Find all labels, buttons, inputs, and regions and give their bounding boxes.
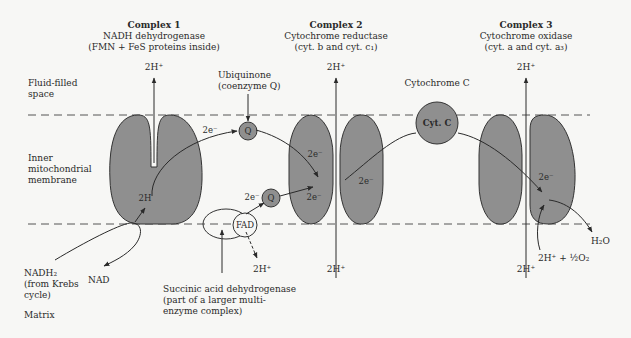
- electron-label-2: 2e⁻: [308, 149, 323, 160]
- complex-2-proton-out: 2H⁺: [327, 62, 345, 73]
- complex-1-title: Complex 1: [128, 20, 181, 31]
- succinic-label-line1: Succinic acid dehydrogenase: [163, 284, 296, 295]
- electron-label-5: 2e⁻: [359, 176, 374, 187]
- complex-3-detail: (cyt. a and cyt. a₃): [485, 42, 568, 53]
- nadh-label-line3: cycle): [24, 290, 51, 301]
- complex-3-title: Complex 3: [500, 20, 553, 31]
- complex-1-proton-out: 2H⁺: [145, 62, 163, 73]
- nadh-label-line2: (from Krebs: [24, 279, 79, 290]
- fluid-space-label-line1: Fluid-filled: [28, 78, 77, 89]
- complex-1-shape: [110, 115, 202, 224]
- complex-3-name: Cytochrome oxidase: [480, 31, 573, 42]
- matrix-label: Matrix: [24, 310, 54, 321]
- complex-2-right-lobe: [340, 115, 383, 224]
- electron-label-4: 2e⁻: [307, 192, 322, 203]
- complex-2-proton-in: 2H⁺: [327, 264, 345, 275]
- complex-3-right-lobe: [530, 115, 575, 224]
- membrane-label-line2: mitochondrial: [28, 164, 92, 175]
- complex-3-proton-in: 2H⁺: [517, 264, 535, 275]
- electron-label-1: 2e⁻: [203, 125, 218, 136]
- water-label: H₂O: [591, 236, 610, 247]
- oxygen-label: 2H⁺ + ½O₂: [538, 253, 589, 264]
- complex-2-left-lobe: [289, 115, 333, 224]
- succinic-label-line3: enzyme complex): [163, 306, 242, 317]
- fad-label: FAD: [236, 220, 254, 231]
- complex-1-name: NADH dehydrogenase: [103, 31, 205, 42]
- nadh-label-line1: NADH₂: [24, 268, 57, 279]
- q-lower-label: Q: [268, 193, 275, 204]
- ubiquinone-label-line1: Ubiquinone: [218, 70, 271, 81]
- complex-2-name: Cytochrome reductase: [284, 31, 387, 42]
- cytochrome-c-label: Cytochrome C: [404, 78, 469, 89]
- fluid-space-label-line2: space: [28, 89, 54, 100]
- electron-transport-chain-diagram: Complex 1 NADH dehydrogenase (FMN + FeS …: [0, 0, 631, 338]
- cytochrome-c-inner-label: Cyt. C: [423, 118, 451, 129]
- electron-label-6: 2e⁻: [539, 172, 554, 183]
- electron-label-3: 2e⁻: [245, 192, 260, 203]
- membrane-label-line1: Inner: [28, 153, 53, 164]
- succinic-label-line2: (part of a larger multi-: [163, 295, 266, 306]
- complex-2-detail: (cyt. b and cyt. c₁): [294, 42, 377, 53]
- membrane-label-line3: membrane: [28, 175, 77, 186]
- complex-3-proton-out: 2H⁺: [517, 62, 535, 73]
- q-top-label: Q: [245, 126, 252, 137]
- complex-1-detail: (FMN + FeS proteins inside): [88, 42, 220, 53]
- nad-label: NAD: [88, 275, 110, 286]
- ubiquinone-label-line2: (coenzyme Q): [218, 81, 281, 92]
- fad-proton-label: 2H⁺: [253, 264, 271, 275]
- complex-1-2h-label: 2H: [139, 193, 152, 204]
- complex-2-title: Complex 2: [310, 20, 363, 31]
- complex-3-left-lobe: [479, 115, 522, 224]
